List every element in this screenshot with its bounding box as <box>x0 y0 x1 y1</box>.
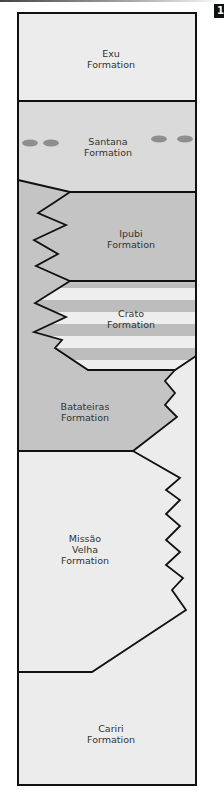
missao-velha-formation-label: Missão Velha Formation <box>25 533 145 566</box>
nodule-icon <box>177 136 193 143</box>
cariri-formation-label: Cariri Formation <box>51 723 171 745</box>
stratigraphic-column <box>0 0 224 794</box>
crato-formation-label: Crato Formation <box>71 308 191 330</box>
nodule-icon <box>22 140 38 147</box>
ipubi-formation-label: Ipubi Formation <box>71 228 191 250</box>
batateiras-formation-label: Batateiras Formation <box>25 401 145 423</box>
exu-formation-label: Exu Formation <box>51 48 171 70</box>
santana-formation-label: Santana Formation <box>48 136 168 158</box>
